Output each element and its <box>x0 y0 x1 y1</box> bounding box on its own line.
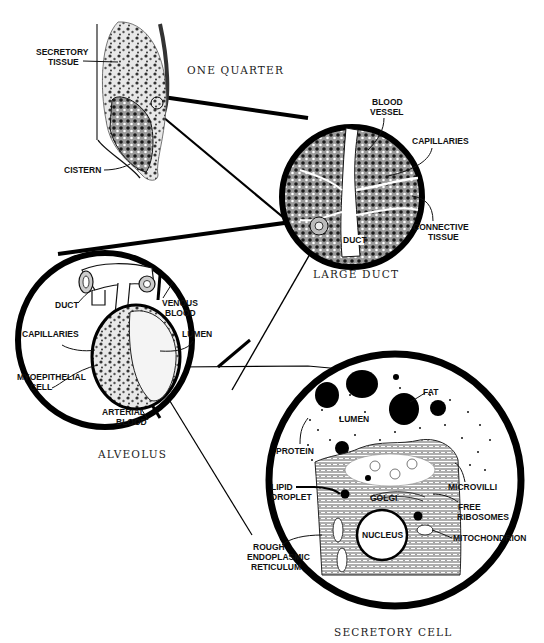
caption-alveolus: ALVEOLUS <box>97 448 167 460</box>
mammary-diagram: SECRETORY TISSUE CISTERN ONE QUARTER BLO… <box>0 0 544 643</box>
label-secretory-tissue-1: SECRETORY <box>36 47 89 57</box>
label-lumen-alveolus: LUMEN <box>182 329 212 339</box>
label-protein: PROTEIN <box>276 446 314 456</box>
caption-large-duct: LARGE DUCT <box>313 268 399 280</box>
label-free-ribosomes-1: FREE <box>458 502 481 512</box>
label-arterial-blood-2: BLOOD <box>116 417 147 427</box>
label-duct-large: DUCT <box>343 235 367 245</box>
alveolus-illustration <box>18 253 192 427</box>
secretory-cell-illustration <box>269 354 521 606</box>
label-microvilli: MICROVILLI <box>448 482 497 492</box>
label-cistern: CISTERN <box>64 165 101 175</box>
label-secretory-tissue-2: TISSUE <box>48 57 79 67</box>
label-lipid-droplet-1: LIPID <box>271 482 293 492</box>
label-connective-tissue-1: CONNECTIVE <box>413 222 469 232</box>
label-rough-er-1: ROUGH <box>253 542 285 552</box>
label-free-ribosomes-2: RIBOSOMES <box>457 512 509 522</box>
one-quarter-illustration <box>97 22 167 180</box>
caption-secretory-cell: SECRETORY CELL <box>334 626 452 638</box>
label-lipid-droplet-2: DROPLET <box>271 492 312 502</box>
caption-one-quarter: ONE QUARTER <box>187 64 284 76</box>
label-rough-er-2: ENDOPLASMIC <box>247 552 310 562</box>
label-capillaries-alveolus: CAPILLARIES <box>22 329 79 339</box>
large-duct-illustration <box>282 127 422 267</box>
label-fat: FAT <box>423 387 439 397</box>
label-arterial-blood-1: ARTERIAL <box>102 407 145 417</box>
label-venous-blood-1: VENOUS <box>162 298 198 308</box>
label-golgi: GOLGI <box>370 493 397 503</box>
label-rough-er-3: RETICULUM <box>251 562 301 572</box>
label-lumen-cell: LUMEN <box>339 414 369 424</box>
label-connective-tissue-2: TISSUE <box>428 232 459 242</box>
label-duct-alveolus: DUCT <box>55 300 79 310</box>
label-blood-vessel-2: VESSEL <box>370 107 404 117</box>
label-myoepithelial-2: CELL <box>30 382 52 392</box>
label-nucleus: NUCLEUS <box>362 530 403 540</box>
label-mitochondrion: MITOCHONDRION <box>453 533 527 543</box>
label-blood-vessel-1: BLOOD <box>372 97 403 107</box>
label-capillaries-duct: CAPILLARIES <box>412 136 469 146</box>
label-venous-blood-2: BLOOD <box>165 308 196 318</box>
